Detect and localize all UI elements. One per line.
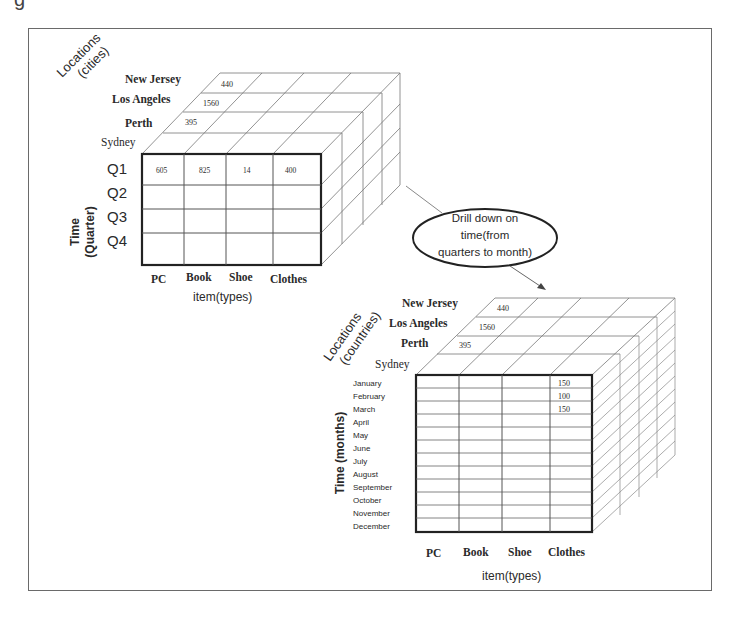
cube2-clothes-march-value: 150 (558, 405, 570, 414)
cube1-item-pc: PC (151, 273, 166, 285)
cube1-time-axis-label-sub: (Quarter) (83, 206, 97, 257)
cube1-quarter-q2: Q2 (107, 184, 127, 201)
cube1-top-value-perth: 395 (185, 118, 197, 127)
cube1-q1-book-value: 825 (199, 166, 211, 175)
annotation-line-2: time(from (461, 229, 510, 241)
cube2-month-april: April (353, 418, 369, 427)
cube1-item-book: Book (186, 271, 212, 283)
drill-down-diagram: g (0, 0, 736, 619)
annotation-line-1: Drill down on (452, 212, 518, 224)
drill-down-annotation: Drill down on time(from quarters to mont… (406, 186, 557, 290)
annotation-line-3: quarters to month) (438, 246, 532, 258)
cube2-month-december: December (353, 522, 390, 531)
cube2-city-sydney: Sydney (375, 358, 410, 371)
cube2-item-pc: PC (426, 547, 441, 559)
cube1-city-new-jersey: New Jersey (125, 73, 181, 86)
cube2-city-los-angeles: Los Angeles (389, 317, 448, 330)
cube2-top-value-perth: 395 (459, 341, 471, 350)
cube1-q1-clothes-value: 400 (285, 166, 297, 175)
cube2-clothes-february-value: 100 (558, 392, 570, 401)
cube2-month-october: October (353, 496, 382, 505)
cube1-q1-pc-value: 605 (156, 166, 168, 175)
cube1-q1-shoe-value: 14 (243, 166, 251, 175)
cube-quarters (142, 73, 400, 265)
cube2-item-clothes: Clothes (548, 546, 586, 558)
cube2-month-november: November (353, 509, 390, 518)
cube2-month-august: August (353, 470, 379, 479)
cube2-item-book: Book (463, 546, 489, 558)
cube-months (416, 298, 675, 532)
arrow-line (510, 266, 543, 288)
cube2-top-value-los-angeles: 1560 (479, 323, 495, 332)
cube1-city-sydney: Sydney (101, 136, 136, 149)
cube1-quarter-q3: Q3 (107, 208, 127, 225)
cube1-labels: Locations (cities) New Jersey Los Angele… (54, 30, 308, 304)
connector-line (406, 186, 442, 213)
cube1-time-axis-label: Time (68, 218, 82, 246)
cube2-month-march: March (353, 405, 375, 414)
cube2-month-labels: January February March April May June Ju… (353, 379, 392, 531)
cube2-item-shoe: Shoe (508, 546, 532, 558)
cube1-item-shoe: Shoe (229, 271, 253, 283)
cube1-right-face (321, 73, 400, 265)
cube2-month-january: January (353, 379, 381, 388)
cube2-item-axis-label: item(types) (482, 569, 541, 583)
cube1-item-clothes: Clothes (270, 273, 308, 285)
cube2-month-may: May (353, 431, 368, 440)
cube1-quarter-q4: Q4 (107, 232, 127, 249)
cube1-top-face (142, 73, 400, 154)
cube2-month-july: July (353, 457, 367, 466)
cube2-top-face (416, 298, 675, 375)
cube2-top-value-new-jersey: 440 (497, 304, 509, 313)
cube2-right-face (592, 298, 675, 532)
cube1-quarter-q1: Q1 (107, 160, 127, 177)
cube1-city-los-angeles: Los Angeles (112, 93, 171, 106)
cube1-city-perth: Perth (125, 117, 153, 129)
cube1-item-axis-label: item(types) (193, 290, 252, 304)
cube1-top-value-new-jersey: 440 (221, 80, 233, 89)
cube2-clothes-january-value: 150 (558, 379, 570, 388)
cube1-top-value-los-angeles: 1560 (203, 99, 219, 108)
diagram-canvas: Locations (cities) New Jersey Los Angele… (0, 0, 736, 619)
cube2-city-new-jersey: New Jersey (402, 297, 458, 310)
cube2-time-axis-label: Time (months) (333, 412, 347, 494)
cube2-city-perth: Perth (401, 337, 429, 349)
cube2-month-september: September (353, 483, 392, 492)
cube2-month-june: June (353, 444, 371, 453)
arrow-head-icon (537, 283, 546, 290)
cube2-month-february: February (353, 392, 385, 401)
